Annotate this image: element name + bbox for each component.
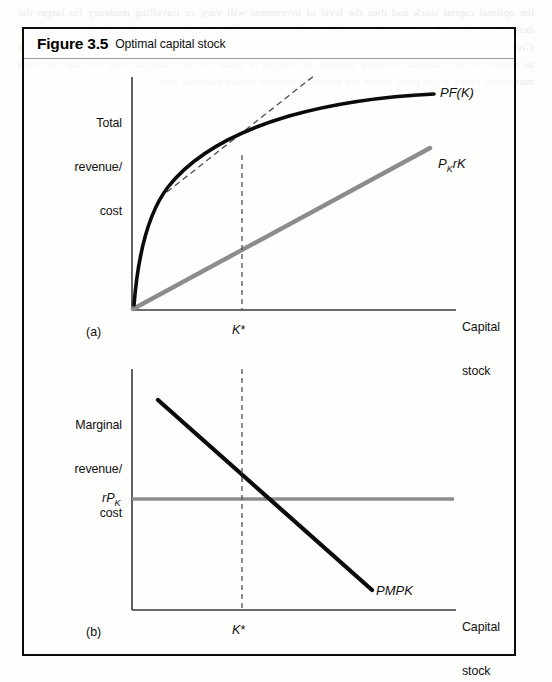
panel-b-letter: (b) <box>86 625 101 639</box>
figure-title: Optimal capital stock <box>115 37 225 51</box>
panel-b-y-axis-title: Marginal revenue/ cost <box>36 389 122 550</box>
panel-a-y-axis-line2: revenue/ <box>36 160 122 175</box>
panel-b-y-axis-line1: Marginal <box>36 418 122 433</box>
figure-header: Figure 3.5 Optimal capital stock <box>24 29 514 59</box>
panel-a-y-axis-line1: Total <box>36 116 122 131</box>
panel-b-y-axis-line2: revenue/ <box>36 462 122 477</box>
figure-number: Figure 3.5 <box>37 35 108 53</box>
panel-b-rpk-tick-label: rPK <box>102 491 121 508</box>
panel-a-letter: (a) <box>86 325 101 339</box>
panel-b: Marginal revenue/ cost Capital stock rPK… <box>24 355 514 655</box>
panel-a-label-pkrk: PKrK <box>438 156 466 174</box>
panel-a-label-pfk: PF(K) <box>440 85 474 100</box>
panel-b-label-pmpk: PMPK <box>376 583 413 598</box>
panel-a-y-axis-line3: cost <box>36 204 122 219</box>
panel-a-label-pkrk-main: P <box>438 156 447 171</box>
panel-b-x-axis-title: Capital stock <box>462 591 532 682</box>
panel-b-rpk-sub: K <box>115 498 121 508</box>
panel-a-x-axis-line1: Capital <box>462 320 532 335</box>
panel-a-cost-line <box>133 148 430 309</box>
panel-a-y-axis-title: Total revenue/ cost <box>36 87 122 248</box>
figure-body: Total revenue/ cost Capital stock PF(K) … <box>24 59 514 654</box>
panel-b-x-axis-line1: Capital <box>462 620 532 635</box>
panel-b-rpk-main: rP <box>102 491 115 505</box>
panel-a-kstar-asterisk: * <box>240 323 245 337</box>
panel-b-kstar-label: K* <box>232 623 245 637</box>
panel-a-revenue-curve <box>134 94 434 305</box>
panel-b-y-axis-line3: cost <box>36 506 122 521</box>
panel-a: Total revenue/ cost Capital stock PF(K) … <box>24 59 514 355</box>
panel-a-kstar-label: K* <box>232 323 245 337</box>
panel-a-label-pkrk-tail: rK <box>453 156 466 171</box>
panel-b-pmpk-line <box>158 400 372 590</box>
panel-b-x-axis-line2: stock <box>462 664 532 679</box>
panel-b-kstar-asterisk: * <box>240 623 245 637</box>
figure-container: Figure 3.5 Optimal capital stock Total <box>22 27 516 656</box>
